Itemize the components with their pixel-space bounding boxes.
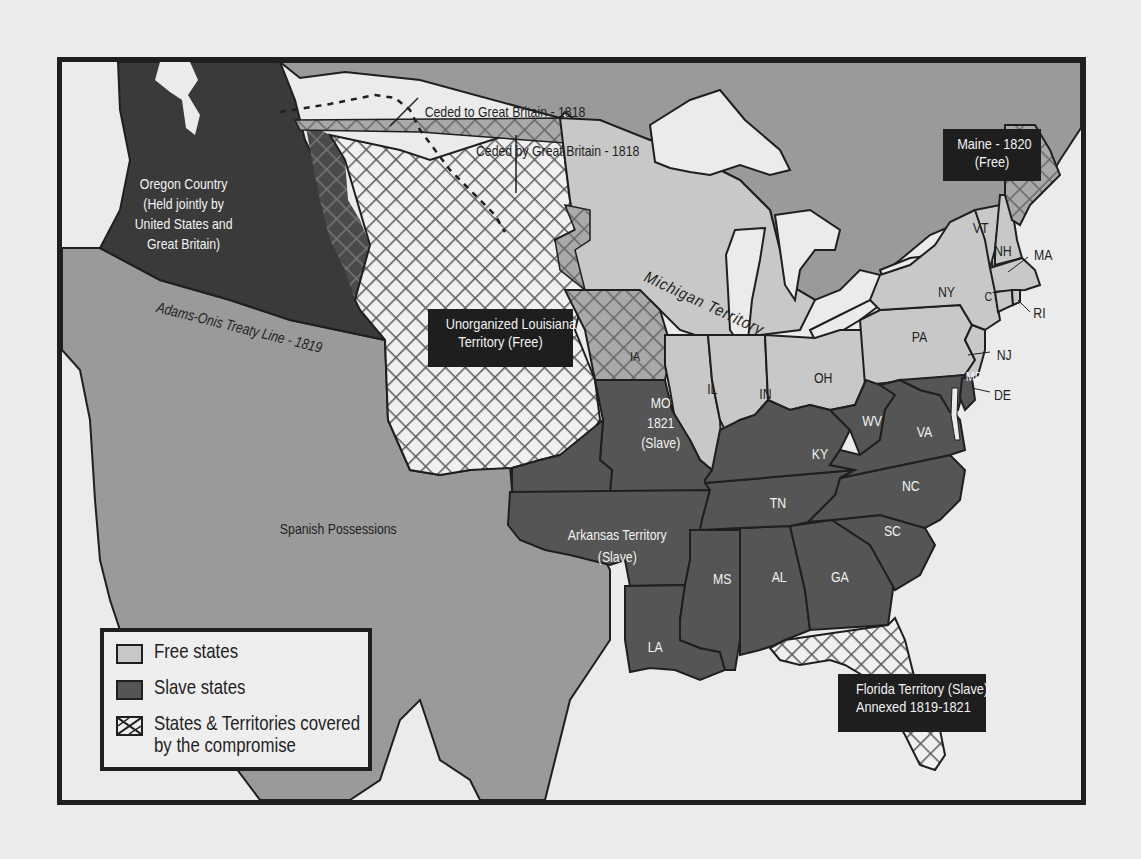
state-label-ri: RI — [1033, 304, 1045, 321]
state-label-pa: PA — [912, 328, 928, 345]
legend-label: Free states — [154, 640, 238, 662]
state-label-md: MD — [966, 370, 983, 385]
state-label-il: IL — [707, 380, 717, 397]
label-box-maine: Maine - 1820 (Free) — [943, 129, 1041, 181]
state-label-ky: KY — [812, 445, 828, 462]
state-label-tn: TN — [770, 494, 786, 511]
state-label-nh: NH — [994, 242, 1012, 259]
legend-label: Slave states — [154, 676, 246, 698]
legend-item-slave-states: Slave states — [116, 676, 368, 712]
state-label-ny: NY — [938, 283, 955, 300]
state-label-nc: NC — [902, 477, 920, 494]
state-label-nj: NJ — [997, 346, 1012, 363]
legend-item-free-states: Free states — [116, 640, 368, 676]
label-box-florida-territory: Florida Territory (Slave) Annexed 1819-1… — [838, 674, 986, 732]
label-spanish-possessions: Spanish Possessions — [280, 520, 397, 537]
label-box-unorganized-louisiana: Unorganized Louisiana Territory (Free) — [428, 309, 573, 367]
free-states-swatch — [116, 644, 143, 664]
state-label-de: DE — [994, 386, 1011, 403]
leader-ri — [1018, 300, 1030, 312]
state-label-va: VA — [917, 423, 933, 440]
map-frame: Ceded to Great Britain - 1818 Ceded by G… — [57, 57, 1086, 805]
label-oregon-country: Oregon Country (Held jointly by United S… — [135, 174, 233, 254]
state-label-in: IN — [759, 385, 771, 402]
hatched-swatch-icon — [116, 716, 143, 736]
label-ceded-to-gb: Ceded to Great Britain - 1818 — [425, 103, 586, 120]
state-label-ms: MS — [713, 570, 731, 587]
label-arkansas-territory: Arkansas Territory (Slave) — [568, 524, 667, 568]
state-label-ma: MA — [1034, 246, 1052, 263]
state-ri — [1012, 290, 1020, 305]
state-label-al: AL — [772, 568, 787, 585]
state-label-wv: WV — [862, 412, 882, 429]
label-ceded-by-gb: Ceded by Great Britain - 1818 — [476, 142, 639, 159]
state-label-ia: IA — [630, 350, 640, 365]
state-label-sc: SC — [884, 522, 901, 539]
label-missouri: MO 1821 (Slave) — [641, 393, 680, 453]
state-label-oh: OH — [814, 369, 832, 386]
map-legend: Free states Slave states States & Territ… — [100, 628, 372, 771]
state-label-ct: CT — [985, 290, 999, 305]
legend-item-compromise: States & Territories covered by the comp… — [116, 712, 368, 756]
slave-states-swatch — [116, 680, 143, 700]
state-label-vt: VT — [973, 219, 989, 236]
state-label-la: LA — [648, 638, 663, 655]
state-label-ga: GA — [831, 568, 849, 585]
legend-label: States & Territories covered by the comp… — [154, 712, 360, 756]
